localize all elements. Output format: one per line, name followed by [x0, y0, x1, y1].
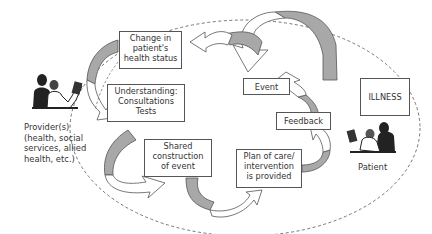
diagram-canvas [0, 0, 432, 234]
provider-label: Provider(s) (health, social services, al… [24, 122, 86, 164]
box-illness: ILLNESS [360, 78, 410, 116]
box-shared-construction: Shared construction of event [144, 139, 212, 177]
box-understanding: Understanding: Consultations Tests [107, 84, 185, 122]
box-feedback: Feedback [276, 112, 331, 130]
plan-to-feedback-arrow [302, 124, 330, 172]
patient-figure-icon [347, 122, 396, 153]
box-event: Event [243, 78, 290, 95]
box-plan-of-care: Plan of care/ intervention is provided [236, 149, 302, 188]
patient-label: Patient [358, 162, 387, 173]
box-change-in-health-status: Change in patient's health status [119, 31, 182, 69]
